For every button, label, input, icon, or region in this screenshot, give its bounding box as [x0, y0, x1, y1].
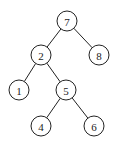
node-label: 8 [96, 50, 102, 62]
tree-node-6: 6 [84, 116, 104, 136]
tree-node-1: 1 [9, 80, 29, 100]
edge-5-6 [72, 98, 88, 118]
node-label: 1 [16, 85, 22, 97]
node-label: 5 [63, 85, 69, 97]
edge-7-8 [74, 28, 92, 47]
tree-node-7: 7 [57, 11, 77, 31]
edge-2-1 [24, 63, 35, 81]
tree-nodes: 7281546 [9, 11, 109, 136]
node-label: 6 [91, 121, 97, 133]
edge-5-4 [47, 98, 61, 118]
node-label: 2 [38, 50, 44, 62]
tree-node-5: 5 [56, 80, 76, 100]
binary-tree-diagram: 7281546 [0, 0, 122, 148]
node-label: 7 [64, 16, 70, 28]
edge-2-5 [47, 63, 60, 82]
tree-node-2: 2 [31, 45, 51, 65]
tree-node-8: 8 [89, 45, 109, 65]
edge-7-2 [47, 29, 61, 47]
tree-edges [24, 28, 92, 118]
tree-node-4: 4 [31, 116, 51, 136]
node-label: 4 [38, 121, 44, 133]
